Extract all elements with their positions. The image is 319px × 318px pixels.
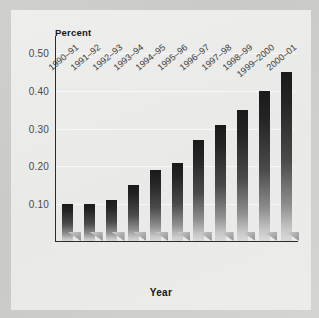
bar-fill bbox=[106, 200, 117, 242]
bar-fill bbox=[193, 140, 204, 242]
bar bbox=[84, 204, 95, 242]
bar bbox=[62, 204, 73, 242]
bar-fill bbox=[150, 170, 161, 242]
bar-fill bbox=[62, 204, 73, 242]
bar bbox=[193, 140, 204, 242]
bar bbox=[259, 91, 270, 242]
bar-fill bbox=[172, 163, 183, 242]
y-axis-tick-label: 0.50 bbox=[29, 48, 49, 59]
bar-fill bbox=[237, 110, 248, 242]
y-axis-tick-label: 0.10 bbox=[29, 199, 49, 210]
x-axis-title: Year bbox=[11, 287, 311, 298]
plot-area: 0.100.200.300.400.50 1990–911991–921992–… bbox=[55, 38, 295, 242]
bar-fill bbox=[281, 72, 292, 242]
y-axis-tick-label: 0.40 bbox=[29, 85, 49, 96]
bar bbox=[172, 163, 183, 242]
bar-fill bbox=[215, 125, 226, 242]
y-axis-tick-label: 0.20 bbox=[29, 161, 49, 172]
chart-screenshot: Percent 0.100.200.300.400.50 1990–911991… bbox=[0, 0, 319, 318]
y-axis-title: Percent bbox=[55, 27, 91, 38]
bar bbox=[106, 200, 117, 242]
chart-panel: Percent 0.100.200.300.400.50 1990–911991… bbox=[11, 10, 311, 310]
bar-fill bbox=[84, 204, 95, 242]
bar bbox=[215, 125, 226, 242]
y-axis-tick-label: 0.30 bbox=[29, 123, 49, 134]
bar bbox=[237, 110, 248, 242]
bar bbox=[150, 170, 161, 242]
bar bbox=[281, 72, 292, 242]
x-axis-line bbox=[55, 241, 298, 242]
bar-fill bbox=[259, 91, 270, 242]
